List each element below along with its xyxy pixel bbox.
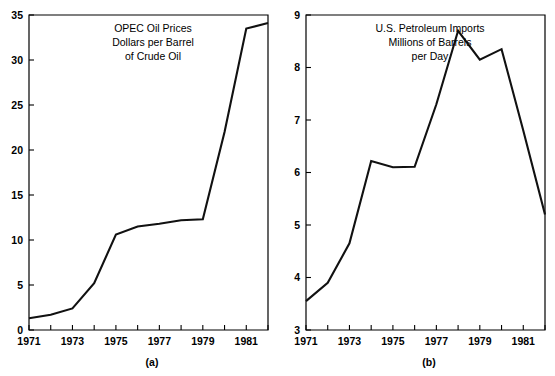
chart-b-title-line-3: per Day xyxy=(412,50,450,62)
chart-a-svg: 05101520253035 197119731975197719791981 … xyxy=(0,0,277,376)
chart-b-tick-marks xyxy=(306,15,545,330)
chart-a-title-line-2: Dollars per Barrel xyxy=(112,36,194,48)
chart-b-x-tick-labels: 197119731975197719791981 xyxy=(294,335,535,347)
chart-a-caption: (a) xyxy=(146,356,159,368)
chart-b-data-line xyxy=(306,31,545,301)
y-tick-label: 30 xyxy=(11,54,23,66)
chart-a-y-tick-labels: 05101520253035 xyxy=(11,9,23,336)
y-tick-label: 20 xyxy=(11,144,23,156)
y-tick-label: 0 xyxy=(17,324,23,336)
x-tick-label: 1973 xyxy=(338,335,362,347)
figure-container: 05101520253035 197119731975197719791981 … xyxy=(0,0,555,376)
chart-a-axes xyxy=(29,15,268,330)
x-tick-label: 1971 xyxy=(17,335,41,347)
x-tick-label: 1975 xyxy=(104,335,128,347)
y-tick-label: 8 xyxy=(294,61,300,73)
chart-b-axis-frame xyxy=(306,15,545,330)
y-tick-label: 35 xyxy=(11,9,23,21)
y-tick-label: 6 xyxy=(294,166,300,178)
chart-a-x-tick-labels: 197119731975197719791981 xyxy=(17,335,258,347)
chart-a-title-line-3: of Crude Oil xyxy=(125,50,181,62)
y-tick-label: 9 xyxy=(294,9,300,21)
chart-a-axis-frame xyxy=(29,15,268,330)
y-tick-label: 5 xyxy=(17,279,23,291)
chart-b-svg: 3456789 197119731975197719791981 U.S. Pe… xyxy=(277,0,555,376)
chart-panel-b: 3456789 197119731975197719791981 U.S. Pe… xyxy=(277,0,554,376)
chart-b-title-line-1: U.S. Petroleum Imports xyxy=(375,22,484,34)
chart-b-caption: (b) xyxy=(422,356,435,368)
chart-b-title-line-2: Millions of Barrels xyxy=(389,36,472,48)
x-tick-label: 1981 xyxy=(512,335,536,347)
x-tick-label: 1975 xyxy=(381,335,405,347)
x-tick-label: 1979 xyxy=(468,335,492,347)
y-tick-label: 4 xyxy=(294,271,300,283)
chart-a-tick-marks xyxy=(29,15,268,330)
chart-b-axes xyxy=(306,15,545,330)
x-tick-label: 1977 xyxy=(148,335,172,347)
y-tick-label: 15 xyxy=(11,189,23,201)
x-tick-label: 1971 xyxy=(294,335,318,347)
y-tick-label: 7 xyxy=(294,114,300,126)
x-tick-label: 1973 xyxy=(61,335,85,347)
chart-b-y-tick-labels: 3456789 xyxy=(294,9,300,336)
chart-a-title-line-1: OPEC Oil Prices xyxy=(114,22,192,34)
chart-a-data-line xyxy=(29,23,268,318)
x-tick-label: 1981 xyxy=(235,335,259,347)
y-tick-label: 3 xyxy=(294,324,300,336)
y-tick-label: 5 xyxy=(294,219,300,231)
x-tick-label: 1977 xyxy=(425,335,449,347)
chart-panel-a: 05101520253035 197119731975197719791981 … xyxy=(0,0,277,376)
y-tick-label: 10 xyxy=(11,234,23,246)
x-tick-label: 1979 xyxy=(191,335,215,347)
y-tick-label: 25 xyxy=(11,99,23,111)
